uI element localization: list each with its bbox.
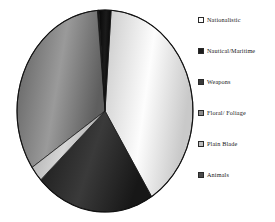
legend-item-animals[interactable]: Animals (198, 169, 229, 180)
legend-label-nationalistic: Nationalistic (207, 16, 241, 23)
legend-item-nautical-maritime[interactable]: Nautical/Maritime (198, 45, 255, 56)
legend-item-floral-foliage[interactable]: Floral/ Foliage (198, 107, 246, 118)
legend-swatch-plain-blade (198, 141, 204, 147)
legend-swatch-weapons (198, 79, 204, 85)
legend-swatch-floral-foliage (198, 110, 204, 116)
legend-item-nationalistic[interactable]: Nationalistic (198, 14, 241, 25)
pie-chart-figure: Nationalistic Nautical/Maritime Weapons … (0, 0, 275, 222)
legend-label-weapons: Weapons (207, 78, 231, 85)
legend-item-plain-blade[interactable]: Plain Blade (198, 138, 237, 149)
legend-swatch-nautical-maritime (198, 48, 204, 54)
legend-item-weapons[interactable]: Weapons (198, 76, 231, 87)
legend-label-floral-foliage: Floral/ Foliage (207, 109, 246, 116)
chart-legend: Nationalistic Nautical/Maritime Weapons … (198, 14, 275, 194)
legend-label-plain-blade: Plain Blade (207, 140, 237, 147)
pie-slice-group (17, 10, 193, 212)
pie-svg (14, 6, 196, 216)
pie-plot-area (14, 6, 196, 216)
legend-swatch-animals (198, 172, 204, 178)
legend-label-nautical-maritime: Nautical/Maritime (207, 47, 255, 54)
legend-label-animals: Animals (207, 171, 229, 178)
legend-swatch-nationalistic (198, 17, 204, 23)
